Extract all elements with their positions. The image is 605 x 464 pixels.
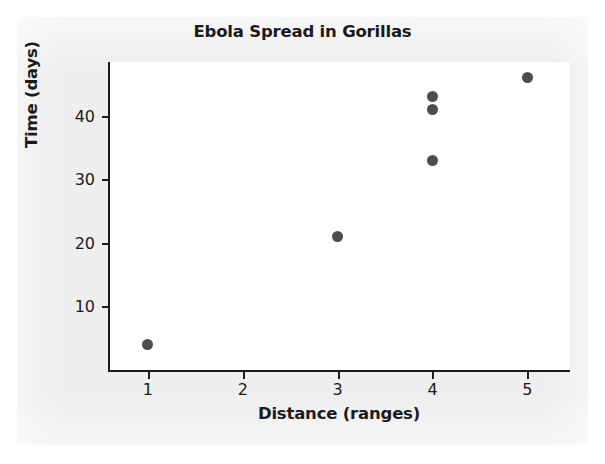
data-point xyxy=(427,91,438,102)
plot-frame: 1020304012345 xyxy=(108,62,570,372)
data-point xyxy=(142,339,153,350)
x-axis-tick-label: 3 xyxy=(333,380,343,399)
x-axis-tick-label: 5 xyxy=(522,380,532,399)
x-axis-title: Distance (ranges) xyxy=(108,404,570,423)
data-point xyxy=(522,72,533,83)
y-axis-tick: 40 xyxy=(102,116,110,118)
x-axis-tick-label: 2 xyxy=(238,380,248,399)
x-axis-tick-label: 1 xyxy=(143,380,153,399)
chart-screenshot: Ebola Spread in Gorillas 1020304012345 D… xyxy=(0,0,605,464)
data-point xyxy=(427,104,438,115)
y-axis-tick: 30 xyxy=(102,179,110,181)
y-axis-tick-label: 30 xyxy=(75,170,95,189)
plot-area: 1020304012345 xyxy=(110,62,570,370)
y-axis-tick: 20 xyxy=(102,243,110,245)
x-axis-tick xyxy=(432,370,434,379)
y-axis-tick: 10 xyxy=(102,306,110,308)
y-axis-tick-label: 10 xyxy=(75,297,95,316)
data-point xyxy=(332,231,343,242)
y-axis-tick-label: 40 xyxy=(75,107,95,126)
data-point xyxy=(427,155,438,166)
x-axis-tick-label: 4 xyxy=(427,380,437,399)
x-axis-tick xyxy=(148,370,150,379)
y-axis-title: Time (days) xyxy=(22,41,41,148)
x-axis-tick xyxy=(527,370,529,379)
x-axis-tick xyxy=(243,370,245,379)
chart-title: Ebola Spread in Gorillas xyxy=(0,22,605,41)
y-axis-tick-label: 20 xyxy=(75,234,95,253)
x-axis-tick xyxy=(338,370,340,379)
